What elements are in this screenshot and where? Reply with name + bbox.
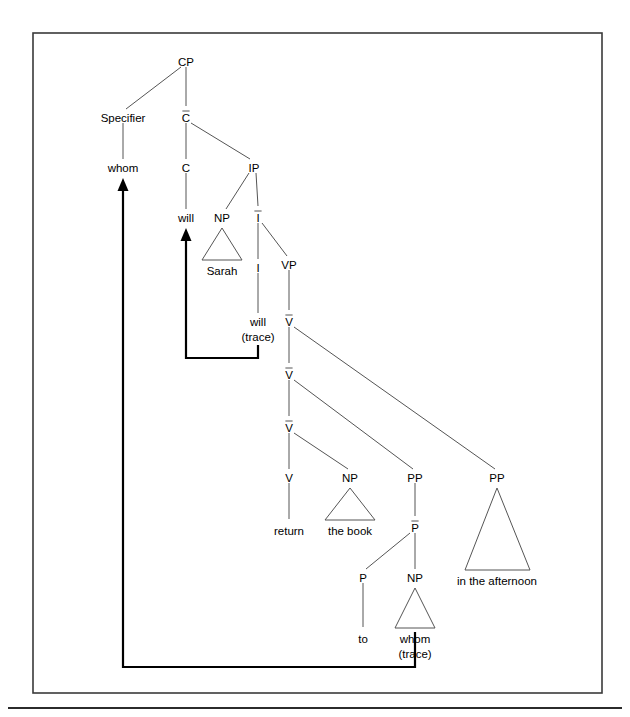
branch-Cbar-to-IP: [191, 123, 250, 159]
triangle-whomtr: [395, 588, 435, 628]
movement-arrowhead-wh-movement: [118, 178, 129, 191]
movement-path-wh-movement: [123, 188, 415, 667]
node-label-I: I: [256, 262, 259, 274]
node-label-C: C: [182, 162, 190, 174]
node-label-whom_spec: whom: [107, 162, 139, 174]
node-label-Pbar: P: [411, 522, 419, 534]
tree-triangles: [202, 228, 530, 628]
figure-border: [33, 33, 602, 693]
branch-IP-to-NP_subj: [226, 173, 249, 209]
node-label-Sarah: Sarah: [207, 265, 238, 277]
branch-Ibar-to-VP: [262, 223, 287, 256]
node-label-VP: VP: [281, 259, 297, 271]
branch-Vbar1-to-PP_aft: [294, 327, 495, 469]
triangle-sarah: [202, 228, 242, 260]
node-label-Specifier: Specifier: [101, 112, 146, 124]
node-label-PP_aft: PP: [489, 472, 505, 484]
triangle-thebook: [325, 488, 375, 520]
node-label-to: to: [358, 633, 368, 645]
tree-canvas: CPSpecifierCwhomCIPwillNPISarahIVPwill(t…: [0, 0, 630, 717]
node-label-Vbar3: V: [285, 422, 293, 434]
tree-branches: [123, 67, 495, 627]
node-label-NP_subj: NP: [214, 212, 230, 224]
node-label-the_book: the book: [328, 525, 372, 537]
node-label-Cbar: C: [182, 112, 190, 124]
movement-arrows: [118, 178, 416, 667]
branch-Pbar-to-P: [366, 533, 410, 569]
node-label-will_tr: will: [249, 316, 266, 328]
node-label-CP: CP: [178, 56, 194, 68]
node-label-P: P: [359, 572, 367, 584]
node-label-Vbar2: V: [285, 369, 293, 381]
tree-nodes: CPSpecifierCwhomCIPwillNPISarahIVPwill(t…: [101, 56, 537, 660]
branch-IP-to-Ibar: [256, 173, 258, 206]
movement-arrowhead-head-movement: [181, 228, 192, 241]
node-label-Vbar1: V: [285, 316, 293, 328]
node-label-PP_to: PP: [407, 472, 423, 484]
node-label-NP_obj: NP: [342, 472, 358, 484]
syntax-tree-figure: CPSpecifierCwhomCIPwillNPISarahIVPwill(t…: [0, 0, 630, 717]
branch-Vbar2-to-PP_to: [294, 380, 413, 469]
node-label-return: return: [274, 525, 304, 537]
node-label-aft_text: in the afternoon: [457, 575, 537, 587]
node-label-Ibar: I: [256, 212, 259, 224]
branch-Vbar3-to-NP_obj: [294, 433, 348, 469]
node-label-V: V: [285, 472, 293, 484]
node-label-will_C: will: [177, 212, 194, 224]
node-label-IP: IP: [249, 162, 260, 174]
triangle-after: [465, 488, 530, 570]
figure-frame: [8, 33, 622, 708]
node-label-will_tr2: (trace): [241, 331, 274, 343]
node-label-NP_trace: NP: [407, 572, 423, 584]
branch-CP-to-Specifier: [126, 67, 181, 109]
